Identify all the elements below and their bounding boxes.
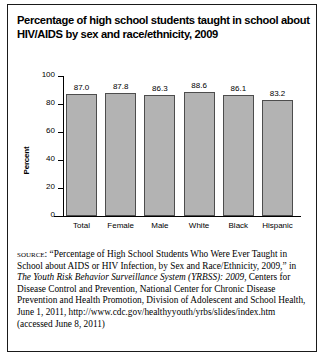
bar: 87.8 [105,93,136,216]
figure-title-line-2: HIV/AIDS by sex and race/ethnicity, 2009 [17,28,305,42]
bar: 87.0 [66,94,97,216]
y-tick-label: 80 [46,98,55,107]
y-axis-line [63,76,64,217]
y-tick: 80 [58,104,63,105]
x-axis-line [54,216,301,217]
y-tick: 40 [58,160,63,161]
y-tick-label: 0 [51,210,55,219]
bar: 88.6 [184,92,215,216]
source-text-1: “Percentage of High School Students Who … [17,249,296,271]
bar: 86.3 [144,95,175,216]
x-category-label: Total [60,221,103,230]
bar-chart: Percent 020406080100 87.087.886.388.686.… [8,60,316,240]
figure-title-line-1: Percentage of high school students taugh… [17,14,305,28]
bar-value-label: 87.0 [74,83,90,92]
x-category-label: Black [217,221,260,230]
source-label: source: [17,248,47,259]
y-tick-label: 60 [46,126,55,135]
bar: 83.2 [262,100,293,216]
y-tick: 60 [58,132,63,133]
y-tick-label: 20 [46,182,55,191]
bar-value-label: 86.1 [231,84,247,93]
y-tick: 0 [58,216,63,217]
x-category-label: Male [138,221,181,230]
figure-container: Percentage of high school students taugh… [7,4,317,352]
x-category-label: Female [99,221,142,230]
x-category-label: Hispanic [256,221,299,230]
source-note: source: “Percentage of High School Stude… [17,248,309,330]
x-category-label: White [178,221,221,230]
figure-title: Percentage of high school students taugh… [17,14,305,41]
bar-value-label: 87.8 [113,82,129,91]
y-axis-label: Percent [22,131,31,191]
y-tick: 100 [58,76,63,77]
y-tick-label: 40 [46,154,55,163]
bar-value-label: 86.3 [152,84,168,93]
source-italic-title: The Youth Risk Behavior Surveillance Sys… [17,272,246,282]
y-tick: 20 [58,188,63,189]
bar-value-label: 83.2 [270,89,286,98]
bar: 86.1 [223,95,254,216]
y-tick-label: 100 [42,70,55,79]
bar-value-label: 88.6 [191,81,207,90]
